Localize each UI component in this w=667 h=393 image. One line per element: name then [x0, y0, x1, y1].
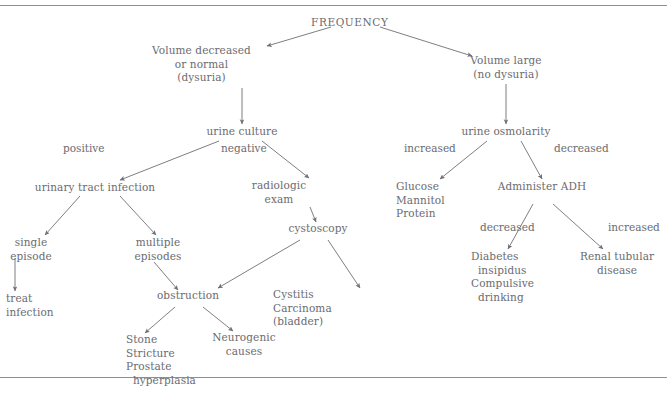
edge-multiple-episodes-to-obstruction	[154, 262, 178, 290]
node-obstruction: obstruction	[152, 289, 224, 303]
edge-radiologic-to-cystoscopy	[310, 207, 316, 222]
node-single-episode: single episode	[2, 236, 60, 263]
edge-root-to-volume-large	[380, 27, 472, 56]
node-treat-infection: treat infection	[6, 292, 54, 319]
node-glucose-mannitol-protein: Glucose Mannitol Protein	[396, 180, 445, 221]
node-multiple-episodes: multiple episodes	[126, 236, 190, 263]
node-stone-stricture-prostate: Stone Stricture Prostate hyperplasia	[126, 333, 196, 387]
diagram-title: FREQUENCY	[311, 16, 389, 28]
node-urine-culture: urine culture	[196, 125, 288, 139]
edge-adh-to-renal-tubular	[553, 204, 603, 249]
node-cystitis-carcinoma: Cystitis Carcinoma (bladder)	[273, 288, 332, 329]
node-administer-adh: Administer ADH	[490, 180, 594, 194]
node-volume-large: Volume large (no dysuria)	[452, 54, 560, 81]
diagram-canvas: FREQUENCY Volume decreased or normal (dy…	[0, 0, 667, 393]
top-divider	[0, 5, 667, 6]
node-neurogenic-causes: Neurogenic causes	[210, 331, 278, 358]
node-volume-decreased: Volume decreased or normal (dysuria)	[144, 44, 259, 85]
edge-label-increased-osmolarity: increased	[404, 142, 456, 155]
edge-osmolarity-to-administer-adh	[521, 141, 542, 179]
node-urinary-tract-infection: urinary tract infection	[29, 181, 161, 195]
edge-urine-culture-to-uti	[120, 141, 219, 180]
node-urine-osmolarity: urine osmolarity	[452, 125, 560, 139]
node-renal-tubular-disease: Renal tubular disease	[574, 250, 660, 277]
edge-root-to-volume-decreased	[267, 27, 331, 46]
edge-label-decreased-adh: decreased	[480, 221, 535, 234]
edge-uti-to-multiple-episodes	[120, 196, 156, 235]
bottom-divider	[0, 377, 667, 378]
node-diabetes-insipidus: Diabetes insipidus Compulsive drinking	[471, 250, 534, 304]
edge-obstruction-to-stone	[145, 307, 175, 333]
flowchart-edges	[0, 0, 667, 393]
edge-label-decreased-osmolarity: decreased	[554, 142, 609, 155]
edge-label-positive: positive	[63, 142, 105, 155]
edge-label-increased-adh: increased	[608, 221, 660, 234]
node-radiologic-exam: radiologic exam	[244, 179, 314, 206]
edge-label-negative: negative	[221, 142, 267, 155]
edge-uti-to-single-episode	[45, 196, 80, 235]
node-cystoscopy: cystoscopy	[285, 222, 351, 236]
edge-urine-culture-to-radiologic	[262, 141, 309, 178]
edge-cystoscopy-to-cystitis	[328, 240, 360, 288]
edge-cystoscopy-to-obstruction	[218, 240, 300, 288]
edge-obstruction-to-neurogenic	[203, 307, 233, 331]
